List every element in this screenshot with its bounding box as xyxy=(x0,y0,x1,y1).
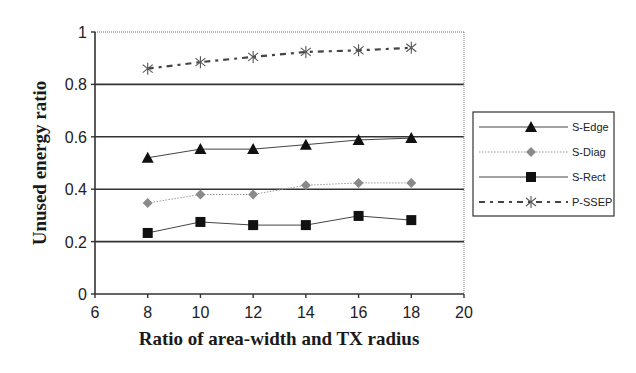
legend-label: P-SSEP xyxy=(572,196,612,208)
square-marker xyxy=(248,220,258,230)
y-tick-label: 1 xyxy=(78,24,87,41)
diamond-marker xyxy=(406,178,416,188)
series-p-ssep xyxy=(143,42,417,75)
x-axis-title: Ratio of area-width and TX radius xyxy=(139,328,420,349)
asterisk-marker xyxy=(406,42,416,54)
square-marker xyxy=(354,211,364,221)
y-tick-label: 0.4 xyxy=(65,181,87,198)
line-chart: 00.20.40.60.81 68101214161820 Ratio of a… xyxy=(0,0,636,373)
square-marker xyxy=(143,228,153,238)
square-marker xyxy=(301,220,311,230)
x-tick-label: 6 xyxy=(91,304,100,321)
series-s-rect xyxy=(143,211,417,238)
x-tick-label: 10 xyxy=(192,304,210,321)
x-tick-label: 8 xyxy=(143,304,152,321)
legend: S-EdgeS-DiagS-RectP-SSEP xyxy=(473,112,614,216)
y-tick-label: 0.6 xyxy=(65,129,87,146)
diamond-marker xyxy=(143,198,153,208)
legend-label: S-Diag xyxy=(572,146,606,158)
square-marker xyxy=(406,215,416,225)
legend-label: S-Rect xyxy=(572,171,606,183)
y-axis-ticks: 00.20.40.60.81 xyxy=(65,24,95,303)
square-marker xyxy=(195,217,205,227)
triangle-marker xyxy=(405,132,417,143)
legend-label: S-Edge xyxy=(572,121,609,133)
square-marker xyxy=(526,172,536,182)
x-axis-ticks: 68101214161820 xyxy=(91,294,473,321)
diamond-marker xyxy=(354,178,364,188)
data-series xyxy=(142,42,418,238)
x-tick-label: 18 xyxy=(402,304,420,321)
asterisk-marker xyxy=(248,51,258,63)
y-tick-label: 0.8 xyxy=(65,76,87,93)
x-tick-label: 14 xyxy=(297,304,315,321)
asterisk-marker xyxy=(354,44,364,56)
x-tick-label: 12 xyxy=(244,304,262,321)
x-tick-label: 20 xyxy=(455,304,473,321)
y-tick-label: 0 xyxy=(78,286,87,303)
diamond-marker xyxy=(195,189,205,199)
y-axis-title: Unused energy ratio xyxy=(29,81,50,246)
x-tick-label: 16 xyxy=(350,304,368,321)
diamond-marker xyxy=(248,189,258,199)
y-tick-label: 0.2 xyxy=(65,234,87,251)
series-s-diag xyxy=(143,178,417,208)
